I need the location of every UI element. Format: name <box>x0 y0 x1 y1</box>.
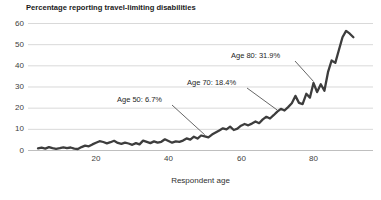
x-axis-tick-label: 80 <box>299 154 329 164</box>
x-axis-tick-label: 20 <box>81 154 111 164</box>
y-axis-tick-label: 60 <box>0 19 24 29</box>
y-axis-tick-label: 30 <box>0 82 24 92</box>
x-axis-tick-label: 40 <box>154 154 184 164</box>
chart: Percentage reporting travel-limiting dis… <box>0 0 381 200</box>
y-axis-tick-label: 20 <box>0 103 24 113</box>
annotation-age-50: Age 50: 6.7% <box>117 95 162 104</box>
plot-area <box>0 0 381 200</box>
annotation-age-80: Age 80: 31.9% <box>231 51 280 60</box>
line-series <box>38 31 353 149</box>
y-axis-tick-label: 40 <box>0 61 24 71</box>
annotation-leader-line <box>247 88 277 110</box>
y-axis-tick-label: 50 <box>0 40 24 50</box>
x-axis-title: Respondent age <box>28 176 373 185</box>
annotation-age-70: Age 70: 18.4% <box>187 78 236 87</box>
y-axis-tick-label: 0 <box>0 146 24 156</box>
annotation-leader-line <box>172 105 205 135</box>
annotation-leader-line <box>295 61 314 81</box>
y-axis-tick-label: 10 <box>0 124 24 134</box>
x-axis-tick-label: 60 <box>227 154 257 164</box>
